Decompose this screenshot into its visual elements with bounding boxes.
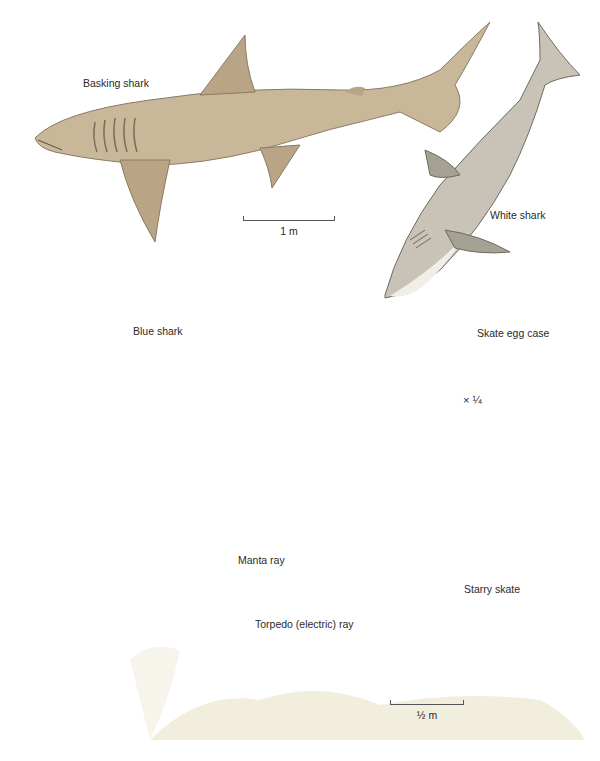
marine-illustration-plate bbox=[0, 0, 600, 761]
label-white-shark: White shark bbox=[490, 210, 545, 221]
label-torpedo-ray: Torpedo (electric) ray bbox=[255, 619, 354, 630]
label-manta-ray: Manta ray bbox=[238, 555, 285, 566]
scale-bar-line bbox=[390, 700, 464, 705]
basking-shark-illustration bbox=[35, 22, 490, 242]
label-skate-egg-case: Skate egg case bbox=[477, 328, 549, 339]
scale-bar-1m: 1 m bbox=[243, 216, 335, 238]
label-blue-shark: Blue shark bbox=[133, 326, 183, 337]
label-basking-shark: Basking shark bbox=[83, 78, 149, 89]
scale-bar-line bbox=[243, 216, 335, 221]
scale-bar-label: ½ m bbox=[390, 709, 464, 721]
white-shark-illustration bbox=[385, 22, 580, 298]
label-starry-skate: Starry skate bbox=[464, 584, 520, 595]
scale-bar-label: 1 m bbox=[243, 225, 335, 237]
label-egg-case-scale: × ¼ bbox=[463, 395, 482, 406]
scale-bar-half-m: ½ m bbox=[390, 700, 464, 722]
seabed bbox=[130, 647, 585, 740]
